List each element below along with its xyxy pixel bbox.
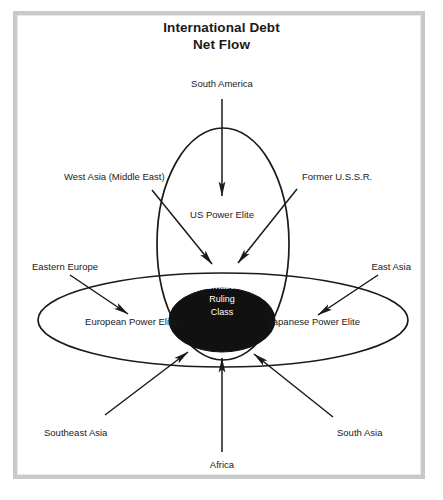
core-label-line-1: International	[197, 280, 247, 293]
label-eastern-europe: Eastern Europe	[32, 261, 98, 274]
label-west-asia: West Asia (Middle East)	[64, 171, 165, 184]
arrow-west-asia	[152, 190, 212, 264]
label-southeast-asia: Southeast Asia	[44, 427, 107, 440]
label-south-america: South America	[191, 78, 253, 91]
label-south-asia: South Asia	[337, 427, 382, 440]
core-label-line-3: Class	[197, 307, 247, 320]
core-label: International Ruling Class	[197, 280, 247, 319]
label-former-ussr: Former U.S.S.R.	[302, 171, 372, 184]
arrow-southeast-asia	[105, 352, 188, 415]
label-east-asia: East Asia	[371, 261, 411, 274]
label-european-power-elite: European Power Elite	[85, 316, 177, 329]
label-africa: Africa	[210, 459, 234, 472]
label-japanese-power-elite: Japanese Power Elite	[268, 316, 360, 329]
core-label-line-2: Ruling	[197, 293, 247, 306]
diagram-page: International Debt Net Flow	[0, 0, 443, 500]
diagram-canvas	[0, 0, 443, 500]
label-us-power-elite: US Power Elite	[190, 209, 254, 222]
